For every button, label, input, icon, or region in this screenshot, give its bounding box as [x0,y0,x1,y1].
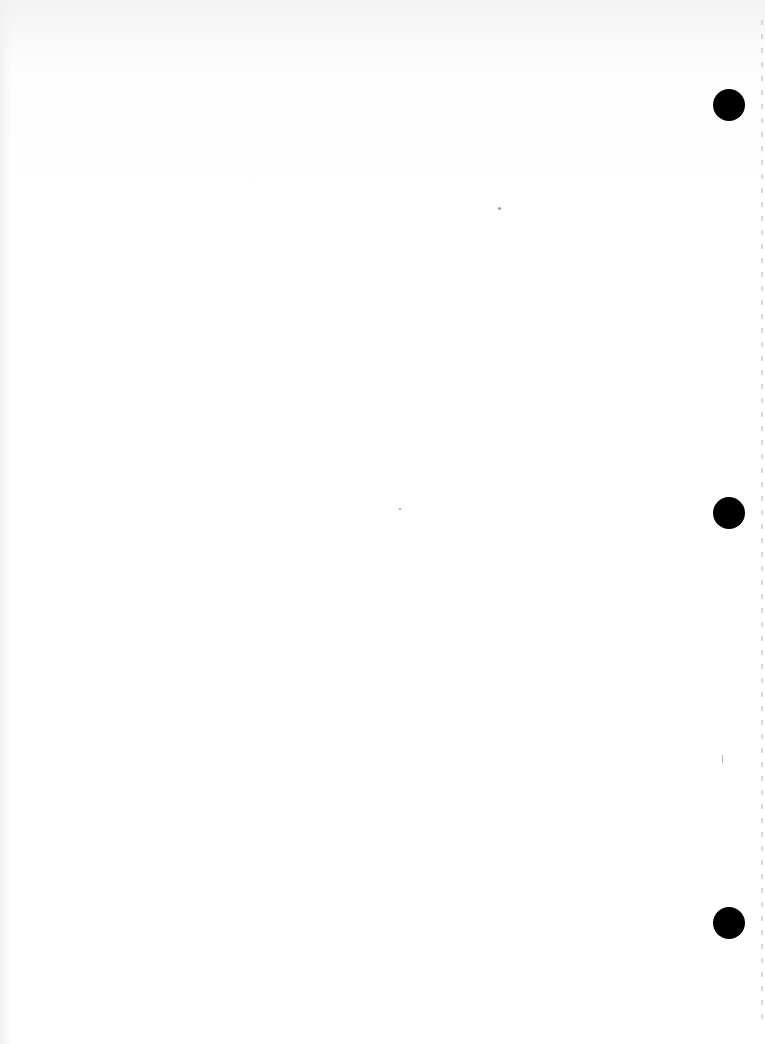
punch-hole-middle [713,497,745,529]
punch-hole-bottom [713,907,745,939]
scan-edge-right [761,20,763,1020]
blank-page [0,0,765,1044]
scan-speck [722,755,723,763]
scan-speck [399,508,401,510]
scan-shadow-left [0,0,12,1044]
punch-hole-top [713,89,745,121]
scan-speck [498,207,501,210]
